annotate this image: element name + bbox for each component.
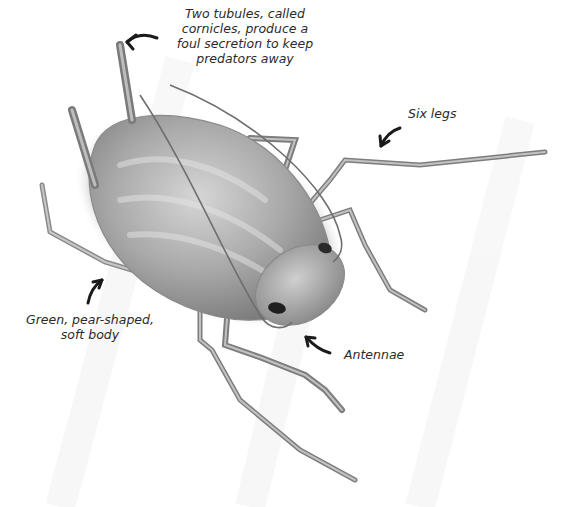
label-antennae: Antennae [344, 347, 404, 362]
cornicle-left [72, 110, 95, 185]
label-legs: Six legs [408, 106, 456, 121]
arrow-cornicles [127, 35, 157, 49]
arrow-body [88, 280, 102, 303]
aphid-illustration [0, 0, 571, 507]
arrow-antennae [306, 337, 330, 353]
arrow-legs [380, 128, 400, 146]
aphid-diagram: Two tubules, called cornicles, produce a… [0, 0, 571, 507]
label-body: Green, pear-shaped, soft body [15, 312, 165, 342]
label-cornicles: Two tubules, called cornicles, produce a… [170, 6, 320, 66]
cornicle-right [120, 45, 132, 120]
